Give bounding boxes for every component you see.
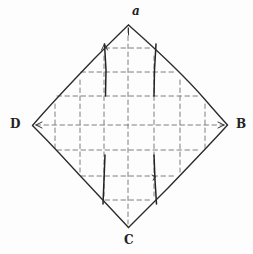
diamond-outline bbox=[33, 25, 228, 228]
diamond-edge-d-to-a bbox=[33, 25, 129, 126]
diamond-edge-b-to-c bbox=[129, 125, 228, 228]
solid-segment-top-right bbox=[154, 44, 156, 96]
solid-fold-segments bbox=[103, 44, 157, 204]
diamond-edge-c-to-d bbox=[33, 126, 129, 228]
solid-segment-top-left bbox=[105, 44, 107, 96]
figure-canvas: a B C D bbox=[0, 0, 253, 254]
tick-marks bbox=[36, 28, 224, 180]
vertex-label-a: a bbox=[132, 5, 140, 17]
solid-segment-bottom-left bbox=[103, 155, 105, 204]
grid-vertical-lines bbox=[55, 28, 205, 224]
grid-horizontal-lines bbox=[36, 48, 224, 200]
vertex-label-b: B bbox=[236, 118, 246, 130]
vertex-label-c: C bbox=[124, 234, 134, 246]
vertex-label-d: D bbox=[10, 118, 20, 130]
solid-segment-bottom-right bbox=[154, 155, 157, 204]
diamond-edge-a-to-b bbox=[129, 25, 228, 125]
diamond-diagram-svg bbox=[0, 0, 253, 254]
